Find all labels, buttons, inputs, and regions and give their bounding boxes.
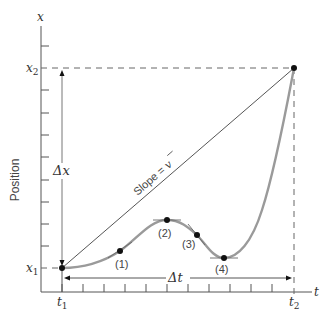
point-1 bbox=[117, 248, 123, 254]
point-2-label: (2) bbox=[158, 227, 171, 239]
t1-label: t1 bbox=[57, 295, 68, 311]
point-start bbox=[59, 265, 65, 271]
point-end bbox=[291, 65, 297, 71]
secant-line bbox=[62, 68, 294, 268]
y-axis-letter: x bbox=[37, 10, 44, 24]
point-4-label: (4) bbox=[215, 263, 228, 275]
x-axis-ticks bbox=[62, 284, 272, 292]
point-2 bbox=[164, 217, 170, 223]
x1-label: x1 bbox=[26, 261, 39, 277]
svg-text:Slope = v: Slope = v bbox=[131, 157, 176, 198]
x2-label: x2 bbox=[26, 61, 39, 77]
point-3-label: (3) bbox=[182, 238, 195, 250]
delta-x-label: Δx bbox=[52, 163, 70, 178]
y-axis-ticks bbox=[41, 46, 49, 246]
t2-label: t2 bbox=[289, 295, 300, 311]
point-4 bbox=[221, 255, 227, 261]
delta-t-label: Δt bbox=[167, 270, 183, 285]
y-axis-title: Position bbox=[8, 159, 22, 202]
point-1-label: (1) bbox=[115, 258, 128, 270]
slope-label: Slope = v bbox=[130, 151, 182, 198]
position-time-diagram: Δx Δt Slope = v (1) (2) (3) (4) x t Posi… bbox=[0, 0, 328, 319]
x-axis-letter: t bbox=[314, 285, 319, 299]
